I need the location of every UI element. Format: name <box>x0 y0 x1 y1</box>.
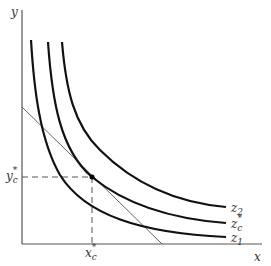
indifference-curve-z1 <box>31 40 226 237</box>
y-axis-label: y <box>10 5 18 19</box>
y-star-label: yc* <box>5 165 18 185</box>
indifference-curve-zc <box>48 42 226 223</box>
indifference-curve-z2 <box>62 42 226 207</box>
tangent-point <box>90 175 95 180</box>
curve-label-z1: z1 <box>230 231 243 247</box>
x-star-label: xc* <box>85 242 97 262</box>
x-axis-label: x <box>254 250 261 264</box>
indifference-curve-diagram: y x z2 zc* z1 yc* xc* <box>0 0 271 266</box>
curve-label-zc: zc* <box>230 213 242 233</box>
